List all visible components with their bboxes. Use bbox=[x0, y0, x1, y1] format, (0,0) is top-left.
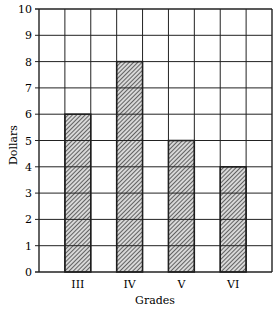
y-axis-ticks: 012345678910 bbox=[18, 3, 32, 279]
y-tick-label: 2 bbox=[25, 213, 32, 226]
x-axis-ticks: IIIIVVVI bbox=[71, 278, 239, 291]
y-tick-label: 4 bbox=[25, 161, 32, 174]
y-tick-label: 0 bbox=[25, 266, 32, 279]
y-tick-label: 8 bbox=[25, 56, 32, 69]
y-tick-label: 5 bbox=[25, 135, 32, 148]
y-axis-label: Dollars bbox=[7, 125, 20, 165]
y-tick-label: 3 bbox=[25, 187, 32, 200]
bar-chart: 012345678910 IIIIVVVI Grades Dollars bbox=[0, 0, 279, 313]
x-tick-label: IV bbox=[123, 278, 136, 291]
x-axis-label: Grades bbox=[135, 294, 175, 307]
x-tick-label: V bbox=[176, 278, 186, 291]
y-tick-label: 6 bbox=[25, 108, 32, 121]
x-tick-label: VI bbox=[226, 278, 239, 291]
x-tick-label: III bbox=[71, 278, 84, 291]
y-tick-label: 7 bbox=[25, 82, 32, 95]
bar-V bbox=[168, 141, 194, 273]
y-tick-label: 10 bbox=[18, 3, 32, 16]
y-tick-label: 1 bbox=[25, 240, 32, 253]
y-tick-label: 9 bbox=[25, 29, 32, 42]
